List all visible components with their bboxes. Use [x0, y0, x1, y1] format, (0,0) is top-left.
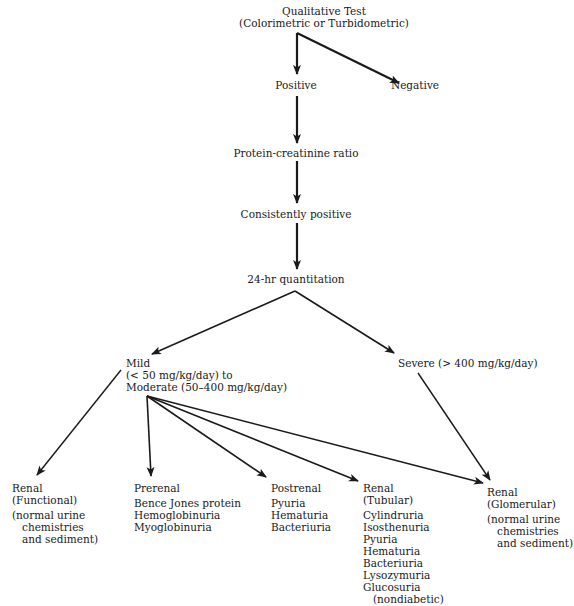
renal-glomerular-note-2: chemistries: [487, 525, 573, 537]
edge-mild-renal-glomerular: [147, 396, 483, 483]
renal-functional-subtitle: (Functional): [12, 494, 98, 506]
renal-functional-note-1: (normal urine: [12, 509, 98, 521]
prerenal-item: Myoglobinuria: [134, 521, 241, 533]
node-postrenal: Postrenal Pyuria Hematuria Bacteriuria: [271, 482, 331, 533]
prerenal-item: Bence Jones protein: [134, 497, 241, 509]
qualitative-subtitle: (Colorimetric or Turbidometric): [239, 17, 409, 29]
mild-line-1: Mild: [126, 357, 287, 369]
renal-tubular-item: Hematuria: [363, 545, 444, 557]
renal-functional-note-3: and sediment): [12, 533, 98, 545]
renal-glomerular-note-3: and sediment): [487, 537, 573, 549]
node-protein-creatinine-ratio: Protein-creatinine ratio: [233, 147, 358, 159]
postrenal-item: Pyuria: [271, 497, 331, 509]
postrenal-item: Hematuria: [271, 509, 331, 521]
renal-tubular-item: Isosthenuria: [363, 521, 444, 533]
edge-quant24-mild: [152, 291, 295, 354]
quant24-label: 24-hr quantitation: [247, 273, 344, 285]
pcr-label: Protein-creatinine ratio: [233, 147, 358, 159]
renal-tubular-item-note: (nondiabetic): [363, 593, 444, 605]
renal-tubular-item: Lysozymuria: [363, 569, 444, 581]
positive-label: Positive: [275, 79, 316, 91]
node-severe: Severe (> 400 mg/kg/day): [398, 357, 538, 369]
node-prerenal: Prerenal Bence Jones protein Hemoglobinu…: [134, 482, 241, 533]
negative-label: Negative: [391, 79, 439, 91]
renal-tubular-item: Glucosuria: [363, 581, 444, 593]
postrenal-item: Bacteriuria: [271, 521, 331, 533]
node-renal-functional: Renal (Functional) (normal urine chemist…: [12, 482, 98, 545]
renal-tubular-item: Pyuria: [363, 533, 444, 545]
severe-label: Severe (> 400 mg/kg/day): [398, 357, 538, 369]
node-24hr-quantitation: 24-hr quantitation: [247, 273, 344, 285]
mild-line-2: (< 50 mg/kg/day) to: [126, 369, 287, 381]
renal-glomerular-note-1: (normal urine: [487, 513, 573, 525]
node-mild-moderate: Mild (< 50 mg/kg/day) to Moderate (50–40…: [126, 357, 287, 393]
node-renal-tubular: Renal (Tubular) Cylindruria Isosthenuria…: [363, 482, 444, 605]
renal-functional-title: Renal: [12, 482, 98, 494]
prerenal-item: Hemoglobinuria: [134, 509, 241, 521]
mild-line-3: Moderate (50–400 mg/kg/day): [126, 381, 287, 393]
prerenal-title: Prerenal: [134, 482, 241, 494]
qualitative-title: Qualitative Test: [239, 5, 409, 17]
consistently-label: Consistently positive: [241, 208, 352, 220]
renal-functional-note-2: chemistries: [12, 521, 98, 533]
renal-tubular-subtitle: (Tubular): [363, 494, 444, 506]
edge-mild-renal-functional: [37, 370, 121, 475]
node-consistently-positive: Consistently positive: [241, 208, 352, 220]
edge-severe-renal-glomerular: [418, 373, 490, 480]
renal-tubular-item: Bacteriuria: [363, 557, 444, 569]
node-renal-glomerular: Renal (Glomerular) (normal urine chemist…: [487, 486, 573, 549]
renal-tubular-item: Cylindruria: [363, 509, 444, 521]
edge-quant24-severe: [295, 291, 394, 353]
renal-glomerular-subtitle: (Glomerular): [487, 498, 573, 510]
renal-tubular-title: Renal: [363, 482, 444, 494]
edge-mild-prerenal: [147, 396, 151, 476]
node-negative: Negative: [391, 79, 439, 91]
renal-glomerular-title: Renal: [487, 486, 573, 498]
node-qualitative-test: Qualitative Test (Colorimetric or Turbid…: [239, 5, 409, 29]
postrenal-title: Postrenal: [271, 482, 331, 494]
node-positive: Positive: [275, 79, 316, 91]
edge-qualitative-negative: [297, 33, 399, 83]
